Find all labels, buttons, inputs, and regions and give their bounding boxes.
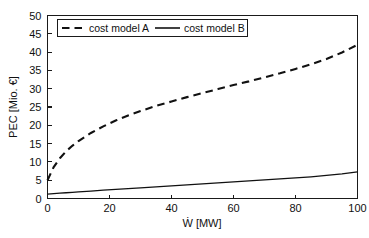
series-line-cost-model-b <box>48 172 358 194</box>
x-axis-title: Ẇ [MW] <box>182 217 221 229</box>
legend-label-cost-model-a: cost model A <box>89 22 149 34</box>
y-tick-label: 25 <box>29 101 41 113</box>
x-tick-label: 20 <box>103 202 115 214</box>
y-tick-label: 10 <box>29 156 41 168</box>
y-tick-label: 15 <box>29 138 41 150</box>
x-tick-labels: 020406080100 <box>44 202 366 214</box>
series-line-cost-model-a <box>48 45 358 180</box>
x-tick-marks <box>48 195 358 199</box>
x-tick-label: 60 <box>227 202 239 214</box>
y-tick-label: 35 <box>29 64 41 76</box>
x-tick-label: 80 <box>289 202 301 214</box>
chart-legend[interactable]: cost model A cost model B <box>58 20 248 37</box>
y-tick-label: 5 <box>35 174 41 186</box>
y-tick-label: 45 <box>29 28 41 40</box>
line-chart: 05101520253035404550 020406080100 Ẇ [MW]… <box>0 0 369 238</box>
y-tick-label: 20 <box>29 119 41 131</box>
x-tick-label: 100 <box>348 202 366 214</box>
y-tick-label: 30 <box>29 83 41 95</box>
chart-figure: 05101520253035404550 020406080100 Ẇ [MW]… <box>0 0 369 238</box>
legend-label-cost-model-b: cost model B <box>184 22 245 34</box>
x-tick-label: 40 <box>165 202 177 214</box>
y-tick-label: 40 <box>29 46 41 58</box>
plot-frame <box>48 16 358 199</box>
y-tick-marks <box>48 16 52 199</box>
y-tick-label: 50 <box>29 10 41 22</box>
y-axis-title: PEC [Mio. €] <box>7 76 19 138</box>
y-tick-label: 0 <box>35 193 41 205</box>
y-tick-labels: 05101520253035404550 <box>29 10 41 205</box>
x-tick-label: 0 <box>44 202 50 214</box>
